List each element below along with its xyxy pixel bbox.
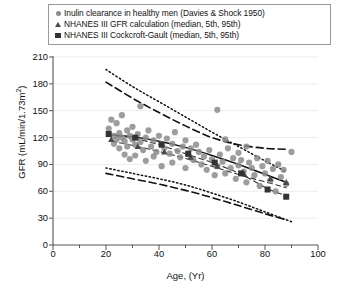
scatter-point-inulin — [198, 161, 204, 167]
scatter-point-inulin — [254, 155, 260, 161]
scatter-point-inulin — [243, 143, 249, 149]
scatter-point-inulin — [175, 148, 181, 154]
scatter-point-inulin — [193, 142, 199, 148]
legend-label-inulin: Inulin clearance in healthy men (Davies … — [64, 8, 265, 19]
scatter-point-inulin — [137, 103, 143, 109]
scatter-point-inulin — [225, 145, 231, 151]
scatter-point-inulin — [222, 170, 228, 176]
scatter-point-inulin — [114, 120, 120, 126]
scatter-point-inulin — [132, 152, 138, 158]
scatter-point-inulin — [172, 129, 178, 135]
scatter-point-inulin — [288, 149, 294, 155]
plot-area: GFR (mL/min/1.73m2) 0306090120150180210 … — [0, 48, 338, 285]
scatter-point-inulin — [169, 160, 175, 166]
median-marker-cockcroft-gault — [238, 170, 244, 176]
scatter-point-inulin — [206, 147, 212, 153]
scatter-point-inulin — [262, 170, 268, 176]
median-marker-cockcroft-gault — [185, 151, 191, 157]
scatter-point-inulin — [188, 145, 194, 151]
scatter-point-inulin — [238, 157, 244, 163]
scatter-point-inulin — [129, 124, 135, 130]
chart-legend: Inulin clearance in healthy men (Davies … — [48, 4, 331, 45]
scatter-point-inulin — [127, 156, 133, 162]
legend-label-cockcroft-gault: NHANES III Cockcroft-Gault (median, 5th,… — [64, 30, 239, 41]
scatter-point-inulin — [180, 143, 186, 149]
median-marker-cockcroft-gault — [132, 135, 138, 141]
scatter-point-inulin — [169, 141, 175, 147]
scatter-point-inulin — [182, 165, 188, 171]
scatter-point-inulin — [164, 135, 170, 141]
scatter-point-inulin — [251, 172, 257, 178]
scatter-point-inulin — [214, 107, 220, 113]
scatter-point-inulin — [270, 166, 276, 172]
scatter-point-inulin — [273, 188, 279, 194]
scatter-point-inulin — [217, 152, 223, 158]
scatter-point-inulin — [124, 143, 130, 149]
scatter-point-inulin — [257, 183, 263, 189]
scatter-point-inulin — [148, 143, 154, 149]
median-marker-cockcroft-gault — [283, 194, 289, 200]
scatter-point-inulin — [265, 158, 271, 164]
scatter-point-inulin — [119, 112, 125, 118]
scatter-point-inulin — [177, 154, 183, 160]
scatter-point-inulin — [159, 163, 165, 169]
scatter-point-inulin — [156, 133, 162, 139]
scatter-point-inulin — [143, 135, 149, 141]
scatter-point-inulin — [220, 159, 226, 165]
scatter-point-inulin — [259, 163, 265, 169]
legend-item-inulin: Inulin clearance in healthy men (Davies … — [52, 8, 326, 19]
scatter-point-inulin — [108, 117, 114, 123]
scatter-point-inulin — [235, 150, 241, 156]
scatter-point-inulin — [278, 174, 284, 180]
square-marker-icon — [52, 33, 64, 38]
scatter-point-inulin — [106, 126, 112, 132]
scatter-point-inulin — [122, 152, 128, 158]
scatter-point-inulin — [275, 161, 281, 167]
scatter-point-inulin — [212, 172, 218, 178]
scatter-point-inulin — [228, 165, 234, 171]
legend-item-gfr-calculation: NHANES III GFR calculation (median, 5th,… — [52, 19, 326, 30]
scatter-point-inulin — [196, 149, 202, 155]
scatter-point-inulin — [145, 127, 151, 133]
scatter-point-inulin — [122, 138, 128, 144]
scatter-point-inulin — [124, 127, 130, 133]
scatter-point-inulin — [201, 153, 207, 159]
scatter-point-inulin — [235, 162, 241, 168]
scatter-point-inulin — [204, 167, 210, 173]
scatter-point-inulin — [116, 145, 122, 151]
legend-label-gfr-calculation: NHANES III GFR calculation (median, 5th,… — [64, 19, 240, 30]
chart-figure: Inulin clearance in healthy men (Davies … — [0, 0, 338, 285]
triangle-marker-icon — [52, 22, 64, 27]
scatter-point-inulin — [140, 147, 146, 153]
median-marker-cockcroft-gault — [159, 142, 165, 148]
scatter-point-inulin — [246, 160, 252, 166]
scatter-point-inulin — [230, 155, 236, 161]
scatter-point-inulin — [151, 137, 157, 143]
scatter-point-inulin — [114, 136, 120, 142]
scatter-point-inulin — [233, 176, 239, 182]
scatter-point-inulin — [249, 165, 255, 171]
median-marker-cockcroft-gault — [265, 187, 271, 193]
scatter-point-inulin — [281, 167, 287, 173]
scatter-point-inulin — [222, 136, 228, 142]
plot-canvas — [0, 48, 338, 285]
scatter-point-inulin — [153, 149, 159, 155]
median-marker-cockcroft-gault — [106, 131, 112, 137]
scatter-point-inulin — [167, 151, 173, 157]
scatter-point-inulin — [143, 158, 149, 164]
scatter-point-inulin — [182, 137, 188, 143]
median-marker-cockcroft-gault — [212, 160, 218, 166]
scatter-point-inulin — [243, 179, 249, 185]
circle-marker-icon — [52, 11, 64, 16]
x-axis-label: Age, (Yr) — [53, 270, 318, 281]
legend-item-cockcroft-gault: NHANES III Cockcroft-Gault (median, 5th,… — [52, 30, 326, 41]
